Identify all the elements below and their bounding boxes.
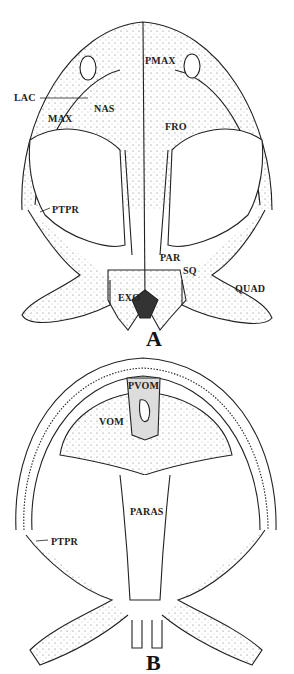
- panel-letter-b: B: [146, 650, 161, 674]
- label-pvom: PVOM: [128, 380, 159, 391]
- panel-letter-a: A: [146, 326, 162, 352]
- label-par: PAR: [160, 252, 180, 263]
- label-exo: EXO: [118, 292, 140, 303]
- label-max: MAX: [48, 113, 72, 124]
- label-quad: QUAD: [235, 283, 265, 294]
- label-sq: SQ: [183, 265, 197, 276]
- label-paras: PARAS: [130, 506, 164, 517]
- label-ptpr-a: PTPR: [52, 204, 79, 215]
- label-lac: LAC: [14, 92, 36, 103]
- label-fro: FRO: [165, 121, 187, 132]
- label-pmax: PMAX: [145, 55, 176, 66]
- label-nas: NAS: [94, 103, 115, 114]
- label-vom: VOM: [99, 416, 124, 427]
- label-ptpr-b: PTPR: [51, 536, 78, 547]
